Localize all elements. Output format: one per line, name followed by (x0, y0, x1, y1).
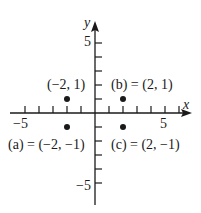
point-neg2-1-dot (64, 96, 70, 102)
point-c-label: (c) = (2, −1) (111, 137, 180, 153)
point-c-dot (120, 124, 126, 130)
x-axis-label: x (182, 97, 190, 112)
axes (10, 30, 183, 205)
y-axis-label: y (82, 15, 91, 30)
coordinate-plane: x y −5 5 5 −5 (−2, 1) (b) = (2, 1) (a) =… (0, 0, 201, 213)
point-a-label: (a) = (−2, −1) (8, 137, 85, 153)
point-b-dot (120, 96, 126, 102)
point-neg2-1-label: (−2, 1) (47, 77, 86, 93)
point-a-dot (64, 124, 70, 130)
x-tick-label-5: 5 (160, 116, 167, 131)
point-b-label: (b) = (2, 1) (111, 77, 173, 93)
x-axis-ticks (25, 106, 179, 113)
y-tick-label-neg5: −5 (76, 178, 91, 193)
y-tick-label-5: 5 (84, 34, 91, 49)
x-tick-label-neg5: −5 (13, 116, 28, 131)
